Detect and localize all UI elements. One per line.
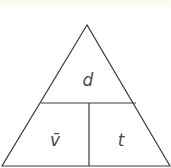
triangle-border bbox=[2, 25, 170, 166]
time-label: t bbox=[118, 132, 125, 149]
distance-label: d bbox=[83, 72, 94, 89]
formula-triangle-diagram: d v̄ t bbox=[0, 0, 171, 168]
velocity-label: v̄ bbox=[50, 132, 60, 149]
